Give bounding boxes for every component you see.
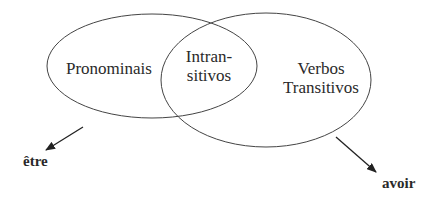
label-verbos: Verbos [266,59,376,78]
label-pronominais: Pronominais [66,59,152,78]
label-transitivos: Transitivos [266,78,376,97]
venn-diagram-canvas [0,0,438,200]
label-intersection-line1: Intran- [179,47,239,66]
arrow-avoir [336,137,376,172]
label-verbos-transitivos: Verbos Transitivos [266,59,376,97]
label-intersection: Intran- sitivos [179,47,239,85]
label-etre: être [23,152,48,171]
label-avoir: avoir [382,174,415,193]
arrow-etre [46,127,83,150]
label-intersection-line2: sitivos [179,66,239,85]
